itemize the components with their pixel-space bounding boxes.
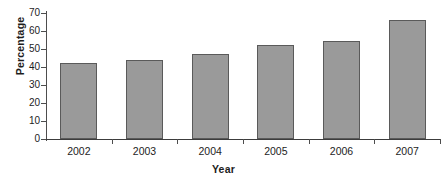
x-tick-label: 2003 — [115, 146, 175, 158]
y-tick-label: 40 — [16, 62, 40, 72]
y-tick-label: 10 — [16, 116, 40, 126]
x-tick-label: 2006 — [312, 146, 372, 158]
x-tick-label: 2004 — [180, 146, 240, 158]
x-tick-mark — [243, 139, 244, 144]
y-tick-mark — [41, 31, 46, 32]
y-tick-mark — [41, 121, 46, 122]
y-tick-label: 20 — [16, 98, 40, 108]
x-tick-label: 2005 — [246, 146, 306, 158]
y-tick-label: 30 — [16, 80, 40, 90]
x-axis-title: Year — [0, 163, 447, 175]
y-tick-label: 70 — [16, 8, 40, 18]
bar — [126, 60, 163, 139]
y-tick-mark — [41, 13, 46, 14]
bar — [389, 20, 426, 139]
bar-chart: Percentage 010203040506070 2002200320042… — [0, 0, 447, 183]
y-tick-mark — [41, 67, 46, 68]
y-axis-line — [46, 11, 47, 141]
y-tick-mark — [41, 139, 46, 140]
bar — [257, 45, 294, 139]
y-tick-label: 0 — [16, 134, 40, 144]
y-tick-mark — [41, 85, 46, 86]
x-tick-label: 2002 — [49, 146, 109, 158]
x-tick-label: 2007 — [377, 146, 437, 158]
x-tick-mark — [177, 139, 178, 144]
x-tick-mark — [112, 139, 113, 144]
y-tick-mark — [41, 49, 46, 50]
y-tick-label: 50 — [16, 44, 40, 54]
x-tick-mark — [374, 139, 375, 144]
bar — [323, 41, 360, 139]
x-tick-mark — [309, 139, 310, 144]
bar — [60, 63, 97, 140]
y-tick-mark — [41, 103, 46, 104]
bar — [192, 54, 229, 139]
x-tick-mark — [440, 139, 441, 144]
y-tick-label: 60 — [16, 26, 40, 36]
